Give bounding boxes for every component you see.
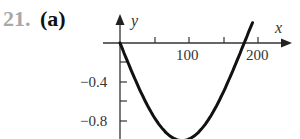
y-axis-label: y [129,12,139,30]
x-axis-arrow-icon [281,39,292,48]
x-ticks [155,37,258,43]
y-tick-label-neg0.4: −0.4 [80,74,108,90]
y-axis-arrow-icon [116,14,125,25]
chart: y x 100 200 −0.4 −0.8 [0,0,300,139]
x-tick-label-200: 200 [246,47,269,63]
x-axis-label: x [274,19,282,36]
y-tick-label-neg0.8: −0.8 [80,113,107,129]
x-tick-label-100: 100 [176,47,199,63]
data-curve [120,23,253,139]
y-ticks [120,62,127,121]
